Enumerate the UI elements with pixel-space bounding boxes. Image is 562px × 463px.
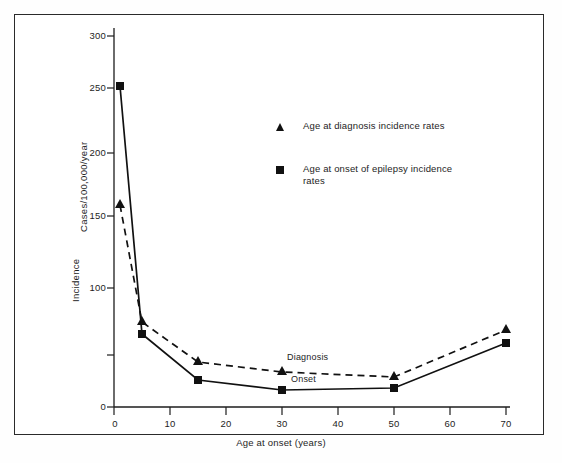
x-tick-label-20: 20 bbox=[217, 418, 235, 429]
y-axis-ticks bbox=[107, 36, 114, 407]
legend-label-diagnosis: Age at diagnosis incidence rates bbox=[303, 120, 513, 132]
annotation-diagnosis: Diagnosis bbox=[287, 352, 328, 362]
legend-square-marker bbox=[276, 166, 284, 174]
x-tick-label-50: 50 bbox=[385, 418, 403, 429]
x-tick-label-10: 10 bbox=[161, 418, 179, 429]
y-tick-label-0: 0 bbox=[84, 401, 106, 412]
x-tick-label-0: 0 bbox=[108, 418, 122, 429]
x-tick-label-40: 40 bbox=[329, 418, 347, 429]
x-tick-label-70: 70 bbox=[497, 418, 515, 429]
legend-label-onset: Age at onset of epilepsy incidence rates bbox=[303, 163, 513, 187]
y-axis-title-incidence: Incidence bbox=[70, 259, 81, 302]
y-axis-title-cases: Cases/100,000/year bbox=[78, 142, 89, 232]
annotation-onset: Onset bbox=[291, 374, 316, 384]
figure-container: 300 250 200 150 100 0 0 10 20 30 40 50 6… bbox=[0, 0, 562, 463]
y-tick-label-250: 250 bbox=[84, 82, 106, 93]
y-tick-label-100: 100 bbox=[84, 282, 106, 293]
legend-triangle-marker bbox=[276, 123, 284, 131]
x-axis-title: Age at onset (years) bbox=[0, 437, 562, 448]
x-tick-label-30: 30 bbox=[273, 418, 291, 429]
x-tick-label-60: 60 bbox=[441, 418, 459, 429]
x-axis-ticks bbox=[114, 407, 506, 415]
y-tick-label-300: 300 bbox=[84, 30, 106, 41]
